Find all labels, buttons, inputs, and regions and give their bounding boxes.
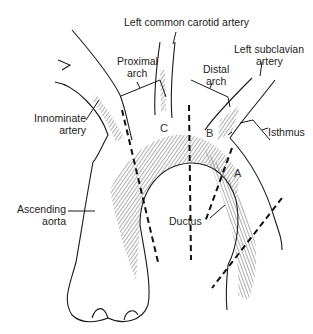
label-ductus: Ductus — [169, 215, 202, 227]
label-left-subclavian-line1: Left subclavian — [234, 43, 304, 55]
zone-c-letter: C — [160, 122, 168, 134]
label-isthmus: Isthmus — [268, 126, 305, 138]
label-left-subclavian-line2: artery — [256, 55, 283, 67]
label-distal-arch-line2: arch — [206, 75, 226, 87]
label-left-common-carotid-artery: Left common carotid artery — [124, 16, 249, 28]
zone-a-letter: A — [234, 167, 241, 179]
label-innominate-line2: artery — [34, 124, 86, 136]
label-distal-arch-line1: Distal — [203, 63, 229, 75]
label-innominate-line1: Innominate — [34, 112, 86, 124]
label-ascending-aorta-line1: Ascending — [14, 203, 66, 215]
zone-b-letter: B — [206, 127, 213, 139]
label-proximal-arch-line1: Proximal — [117, 55, 158, 67]
shading — [92, 70, 256, 300]
label-ascending-aorta-line2: aorta — [14, 215, 66, 227]
label-proximal-arch-line2: arch — [127, 67, 147, 79]
